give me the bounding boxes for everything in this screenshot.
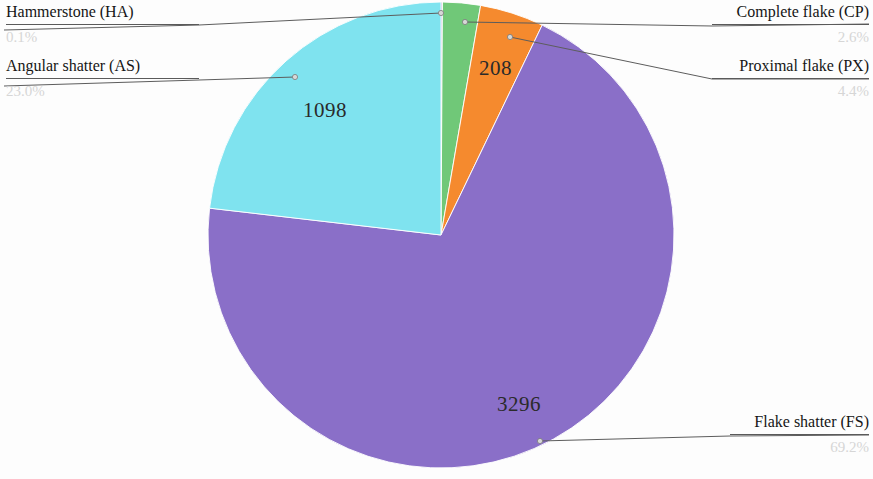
callout-percent-proximal-flake: 4.4% (712, 79, 869, 101)
leader-dot-complete-flake (462, 19, 467, 24)
leader-dot-flake-shatter (537, 438, 542, 443)
callout-angular-shatter: Angular shatter (AS) 23.0% (6, 56, 199, 101)
leader-dot-proximal-flake (507, 34, 512, 39)
callout-flake-shatter: Flake shatter (FS) 69.2% (730, 412, 869, 457)
callout-percent-angular-shatter: 23.0% (6, 79, 199, 101)
callout-category-complete-flake: Complete flake (CP) (712, 2, 869, 24)
callout-percent-hammerstone: 0.1% (6, 25, 199, 47)
callout-hammerstone: Hammerstone (HA) 0.1% (6, 2, 199, 47)
slice-value-angular-shatter: 1098 (303, 98, 347, 123)
leader-dot-angular-shatter (292, 74, 297, 79)
pie-slice-cp[interactable] (441, 2, 481, 235)
pie-slice-ha[interactable] (441, 2, 442, 235)
slice-value-proximal-flake: 208 (479, 56, 512, 81)
callout-proximal-flake: Proximal flake (PX) 4.4% (712, 56, 869, 101)
callout-percent-complete-flake: 2.6% (712, 25, 869, 47)
callout-category-proximal-flake: Proximal flake (PX) (712, 56, 869, 78)
callout-category-flake-shatter: Flake shatter (FS) (730, 412, 869, 434)
callout-category-angular-shatter: Angular shatter (AS) (6, 56, 199, 78)
pie-chart-figure: 208 3296 1098 Hammerstone (HA) 0.1% Angu… (0, 0, 873, 479)
slice-value-flake-shatter: 3296 (497, 392, 541, 417)
callout-percent-flake-shatter: 69.2% (730, 435, 869, 457)
callout-complete-flake: Complete flake (CP) 2.6% (712, 2, 869, 47)
callout-category-hammerstone: Hammerstone (HA) (6, 2, 199, 24)
leader-dot-hammerstone (438, 10, 443, 15)
pie-slice-fs[interactable] (208, 25, 674, 468)
pie-slice-px[interactable] (441, 5, 542, 235)
